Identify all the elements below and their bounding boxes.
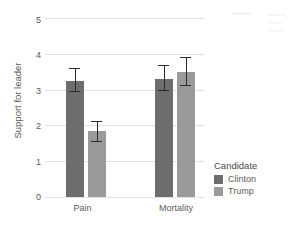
gridline-0 <box>45 197 205 198</box>
errorbar-cap-bottom-pain-trump <box>91 141 102 142</box>
y-tick-0: 0 <box>15 193 41 202</box>
errorbar-pain-trump <box>97 122 98 142</box>
y-tick-4: 4 <box>15 51 41 60</box>
scan-artifact <box>268 30 284 32</box>
y-tick-5: 5 <box>15 16 41 25</box>
legend-swatch-clinton <box>214 175 223 184</box>
legend-item-trump[interactable]: Trump <box>214 187 257 196</box>
scan-artifact <box>268 14 286 16</box>
x-tick-pain: Pain <box>60 203 105 213</box>
errorbar-mortality-clinton <box>164 66 165 92</box>
y-tick-1: 1 <box>15 158 41 167</box>
legend-swatch-trump <box>214 187 223 196</box>
scan-artifact <box>268 22 282 24</box>
legend-title: Candidate <box>214 160 257 171</box>
errorbar-cap-top-pain-trump <box>91 121 102 122</box>
errorbar-cap-bottom-pain-clinton <box>69 91 80 92</box>
y-tick-3: 3 <box>15 87 41 96</box>
scan-artifact <box>232 12 252 15</box>
errorbar-cap-top-mortality-trump <box>180 57 191 58</box>
errorbar-cap-top-pain-clinton <box>69 68 80 69</box>
errorbar-cap-bottom-mortality-clinton <box>158 90 169 91</box>
errorbar-cap-top-mortality-clinton <box>158 65 169 66</box>
bar-mortality-clinton <box>155 79 173 197</box>
legend-label-clinton: Clinton <box>228 175 256 184</box>
bar-chart: Support for leader 5 4 3 2 1 0 <box>0 0 302 239</box>
bars-layer <box>45 18 205 197</box>
y-tick-2: 2 <box>15 122 41 131</box>
bar-mortality-trump <box>177 72 195 197</box>
bar-pain-clinton <box>66 81 84 197</box>
errorbar-pain-clinton <box>75 69 76 93</box>
errorbar-cap-bottom-mortality-trump <box>180 85 191 86</box>
errorbar-mortality-trump <box>186 58 187 86</box>
legend: Candidate Clinton Trump <box>214 160 257 199</box>
x-tick-mortality: Mortality <box>148 203 204 213</box>
legend-label-trump: Trump <box>228 187 254 196</box>
y-axis-tick-labels: 5 4 3 2 1 0 <box>11 0 41 239</box>
legend-item-clinton[interactable]: Clinton <box>214 175 257 184</box>
